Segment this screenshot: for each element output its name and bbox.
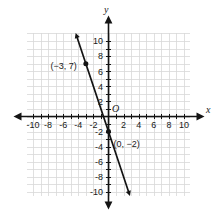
x-tick-label: 6 <box>151 120 156 130</box>
y-tick-label: 10 <box>93 36 103 46</box>
x-tick-label: -4 <box>74 120 82 130</box>
x-tick-label: 2 <box>121 120 126 130</box>
y-tick-label: -8 <box>95 172 103 182</box>
x-axis-label: x <box>205 104 211 115</box>
y-tick-label: -4 <box>95 142 103 152</box>
y-tick-label: -10 <box>90 187 103 197</box>
coordinate-plane-figure: -10-8-6-4-2246810 108642-2-4-6-8-10 x y … <box>0 0 219 211</box>
x-tick-label: -6 <box>59 120 67 130</box>
x-tick-label: 10 <box>179 120 189 130</box>
data-point-label: (−3, 7) <box>51 61 77 71</box>
origin-label: O <box>112 103 119 114</box>
x-tick-label: -10 <box>26 120 39 130</box>
y-tick-label: -6 <box>95 157 103 167</box>
x-tick-label: 4 <box>136 120 141 130</box>
y-tick-label: 4 <box>98 82 103 92</box>
data-point-marker <box>106 129 111 134</box>
y-axis-label: y <box>103 4 109 15</box>
graph-canvas: -10-8-6-4-2246810 108642-2-4-6-8-10 x y … <box>0 0 219 211</box>
data-point-marker <box>83 61 88 66</box>
y-tick-label: -2 <box>95 127 103 137</box>
data-point-label: (0, −2) <box>114 139 140 149</box>
y-tick-label: 6 <box>98 67 103 77</box>
x-tick-label: 8 <box>166 120 171 130</box>
x-tick-label: -8 <box>44 120 52 130</box>
y-tick-label: 8 <box>98 51 103 61</box>
